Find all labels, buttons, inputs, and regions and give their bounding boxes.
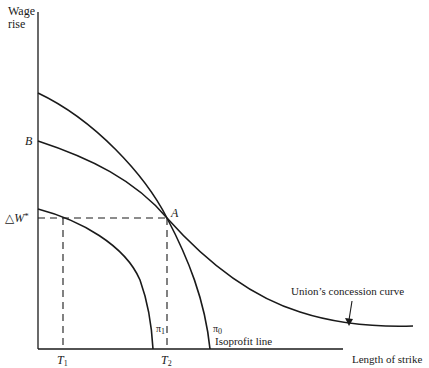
- y-axis-label-line2: rise: [8, 18, 35, 31]
- t1-sub: 1: [64, 359, 68, 368]
- delta-w-star-label: △W*: [5, 212, 29, 224]
- point-a-label: A: [171, 207, 178, 219]
- t1-main: T: [57, 353, 64, 367]
- delta-w-text: △W: [5, 211, 24, 225]
- wage-strike-diagram: [0, 0, 429, 368]
- x-axis-label: Length of strike: [352, 354, 422, 365]
- concession-curve-label: Union’s concession curve: [291, 286, 404, 297]
- isoprofit-line-label: Isoprofit line: [215, 336, 272, 347]
- union-concession-curve: [38, 141, 413, 326]
- t2-label: T2: [161, 354, 172, 368]
- t2-main: T: [161, 353, 168, 367]
- pi1-label: π1: [156, 324, 165, 336]
- point-b-label: B: [25, 135, 32, 147]
- isoprofit-curve-pi1: [38, 209, 153, 349]
- t1-label: T1: [57, 354, 68, 368]
- delta-w-star-text: *: [24, 211, 29, 221]
- y-axis-label: Wage rise: [8, 5, 35, 31]
- isoprofit-curve-pi0: [38, 93, 210, 349]
- t2-sub: 2: [168, 359, 172, 368]
- concession-arrow-line: [349, 301, 352, 320]
- pi1-sub: 1: [161, 327, 165, 336]
